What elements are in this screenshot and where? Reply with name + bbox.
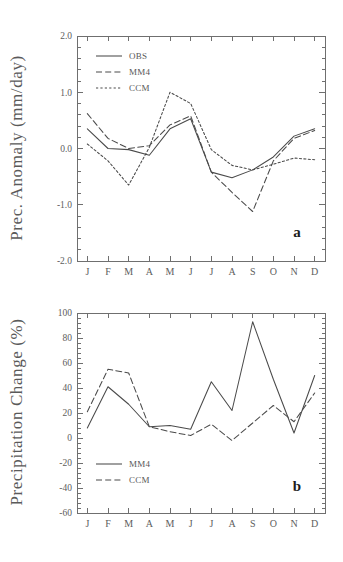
x-tick-label-b-7: A: [228, 518, 236, 529]
y-tick-label-a-0: 2.0: [60, 31, 72, 41]
panel-a: 2.01.00.0-1.0-2.0JFMAMJJASONDOBSMM4CCMPr…: [7, 31, 325, 277]
x-tick-label-a-4: M: [166, 266, 175, 277]
x-tick-label-b-9: O: [270, 518, 277, 529]
x-tick-label-a-10: N: [290, 266, 297, 277]
y-axis-title-a: Prec. Anomaly (mm/day): [7, 55, 26, 241]
x-tick-label-b-5: J: [189, 518, 193, 529]
x-tick-label-a-5: J: [189, 266, 193, 277]
two-panel-line-chart: 2.01.00.0-1.0-2.0JFMAMJJASONDOBSMM4CCMPr…: [0, 0, 343, 562]
x-tick-label-a-1: F: [105, 266, 111, 277]
plot-frame-b: [77, 313, 325, 513]
x-tick-label-a-6: J: [209, 266, 213, 277]
y-tick-label-a-1: 1.0: [60, 88, 72, 98]
legend-label-b-mm4: MM4: [129, 459, 151, 469]
x-tick-label-b-10: N: [290, 518, 297, 529]
legend-label-b-ccm: CCM: [129, 475, 150, 485]
panel-label-b: b: [293, 478, 301, 494]
x-tick-label-b-4: M: [166, 518, 175, 529]
panel-b: 100806040200-20-40-60JFMAMJJASONDMM4CCMP…: [7, 308, 325, 529]
x-tick-label-b-8: S: [250, 518, 256, 529]
x-tick-label-b-0: J: [85, 518, 89, 529]
y-tick-label-b-3: 40: [63, 383, 73, 393]
x-tick-label-b-3: A: [146, 518, 154, 529]
x-tick-label-a-0: J: [85, 266, 89, 277]
y-tick-label-b-5: 0: [67, 433, 72, 443]
y-tick-label-b-2: 60: [63, 358, 73, 368]
series-b-mm4: [87, 322, 314, 433]
x-tick-label-b-1: F: [105, 518, 111, 529]
x-tick-label-a-7: A: [228, 266, 236, 277]
y-tick-label-b-6: -20: [59, 458, 72, 468]
y-tick-label-b-0: 100: [58, 308, 73, 318]
x-tick-label-a-8: S: [250, 266, 256, 277]
x-tick-label-b-2: M: [124, 518, 133, 529]
y-tick-label-b-4: 20: [63, 408, 73, 418]
x-tick-label-a-9: O: [270, 266, 277, 277]
x-tick-label-a-2: M: [124, 266, 133, 277]
x-tick-label-b-6: J: [209, 518, 213, 529]
y-tick-label-b-8: -60: [59, 508, 72, 518]
x-tick-label-b-11: D: [311, 518, 318, 529]
legend-label-a-ccm: CCM: [129, 83, 150, 93]
series-a-ccm: [87, 92, 314, 185]
legend-label-a-mm4: MM4: [129, 67, 151, 77]
y-tick-label-b-1: 80: [63, 333, 73, 343]
x-tick-label-a-11: D: [311, 266, 318, 277]
panel-label-a: a: [293, 224, 301, 240]
y-tick-label-b-7: -40: [59, 483, 72, 493]
figure-container: 2.01.00.0-1.0-2.0JFMAMJJASONDOBSMM4CCMPr…: [0, 0, 343, 562]
y-tick-label-a-4: -2.0: [57, 256, 72, 266]
x-tick-label-a-3: A: [146, 266, 154, 277]
y-tick-label-a-3: -1.0: [57, 200, 72, 210]
y-tick-label-a-2: 0.0: [60, 144, 72, 154]
y-axis-title-b: Precipitation Change (%): [7, 318, 26, 505]
series-a-obs: [87, 119, 314, 178]
legend-label-a-obs: OBS: [129, 51, 147, 61]
